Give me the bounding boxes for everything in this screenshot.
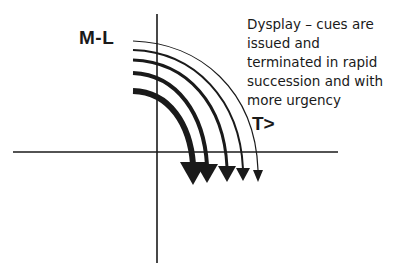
x-axis-label: T> <box>252 113 275 135</box>
cue-arrow-5 <box>133 91 206 185</box>
description-line: more urgency <box>247 91 397 110</box>
description-line: terminated in rapid <box>247 53 397 72</box>
description-line: succession and with <box>247 72 397 91</box>
description-line: Dysplay – cues are <box>247 15 397 34</box>
description-text: Dysplay – cues are issued and terminated… <box>247 15 397 110</box>
y-axis-label: M-L <box>79 27 114 49</box>
cue-arrow-4 <box>133 73 218 183</box>
description-line: issued and <box>247 34 397 53</box>
